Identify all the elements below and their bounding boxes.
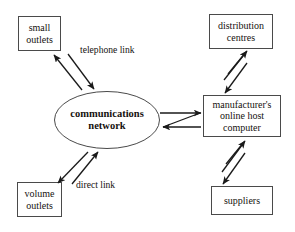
node-shape-small-outlets: [19, 17, 61, 51]
node-shape-distribution-centres: [210, 15, 273, 49]
node-shape-communications-network: [55, 92, 160, 149]
edge-network-small-outlets: [54, 54, 94, 90]
diagram-vector-layer: [0, 0, 295, 232]
edge-manufacturer-host-distribution-centres: [224, 51, 247, 93]
node-shape-volume-outlets: [18, 183, 62, 217]
node-shape-suppliers: [212, 187, 273, 215]
edge-network-manufacturer-host: [160, 113, 201, 127]
edge-manufacturer-host-suppliers: [222, 141, 245, 184]
diagram-canvas: small outlets distribution centres commu…: [0, 0, 295, 232]
node-shape-manufacturer-host: [204, 96, 281, 137]
edge-network-volume-outlets: [58, 152, 98, 184]
